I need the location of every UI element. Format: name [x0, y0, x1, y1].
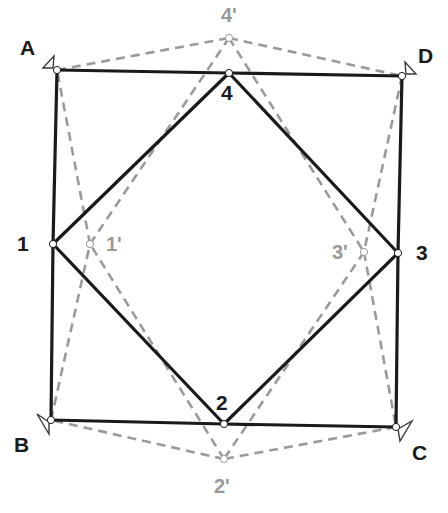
node-corner-c [392, 423, 399, 430]
node-point-4 [225, 69, 232, 76]
dashed-member-4p-D [229, 38, 402, 76]
truss-diagram: A B C D 1 2 3 4 1' 2' 3' 4' [0, 0, 448, 513]
dashed-member-2p-B [51, 420, 224, 459]
label-corner-a: A [20, 36, 35, 59]
label-point-1: 1 [17, 232, 29, 255]
dashed-member-C-2p [224, 427, 396, 459]
original-solid-frame [51, 70, 402, 427]
dashed-member-1p-A [57, 70, 90, 244]
support-triangle-icon-b [37, 414, 49, 434]
solid-member-C-2 [224, 424, 396, 427]
solid-member-4-3 [229, 73, 398, 253]
support-triangle-icon-c [398, 421, 412, 441]
dashed-member-3p-C [364, 252, 396, 427]
node-point-3p [360, 248, 367, 255]
node-point-3 [394, 249, 401, 256]
node-point-4p [225, 34, 232, 41]
node-point-1 [49, 240, 56, 247]
dashed-member-B-1p [51, 244, 90, 420]
dashed-member-A-4p [57, 38, 229, 70]
label-corner-d: D [418, 44, 433, 67]
label-point-4: 4 [221, 81, 233, 104]
solid-member-D-3 [398, 76, 402, 253]
node-corner-d [398, 72, 405, 79]
node-corner-a [53, 66, 60, 73]
label-point-1-prime: 1' [106, 233, 122, 255]
solid-member-1-A [53, 70, 57, 244]
label-corner-c: C [412, 441, 427, 464]
label-point-3-prime: 3' [332, 241, 348, 263]
solid-member-1-4 [53, 73, 229, 244]
label-point-2-prime: 2' [214, 475, 230, 497]
label-point-2: 2 [216, 391, 228, 414]
solid-member-2-1 [53, 244, 224, 424]
node-corner-b [47, 416, 54, 423]
support-triangle-icon-d [405, 62, 416, 74]
support-triangle-icon-a [43, 56, 54, 68]
solid-member-2-B [51, 420, 224, 424]
solid-member-3-C [396, 253, 398, 427]
solid-member-4-D [229, 73, 402, 76]
label-point-4-prime: 4' [221, 4, 237, 26]
solid-member-B-1 [51, 244, 53, 420]
solid-member-3-2 [224, 253, 398, 424]
dashed-member-D-3p [364, 76, 402, 252]
node-point-2p [220, 455, 227, 462]
node-point-2 [220, 420, 227, 427]
node-point-1p [86, 240, 93, 247]
label-point-3: 3 [416, 241, 428, 264]
solid-member-A-4 [57, 70, 229, 73]
label-corner-b: B [14, 433, 29, 456]
